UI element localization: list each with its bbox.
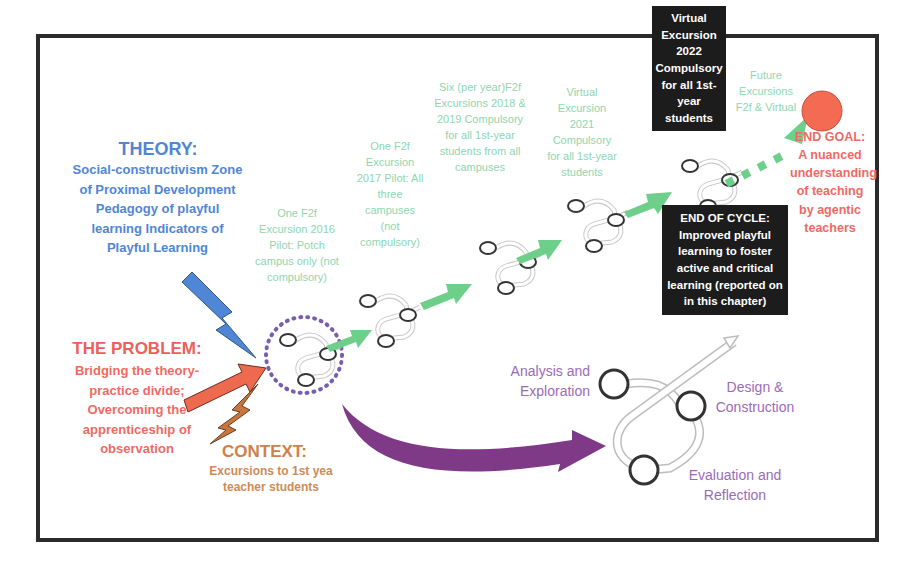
- phase-analysis-label: Analysis and Exploration: [490, 362, 590, 401]
- context-title: CONTEXT:: [222, 441, 342, 462]
- theory-body: Social-constructivism Zone of Proximal D…: [70, 160, 245, 258]
- stage-future-label: Future Excursions F2f & Virtual: [730, 68, 802, 116]
- theory-title: THEORY:: [88, 138, 228, 161]
- stage-2016-label: One F2f Excursion 2016 Pilot: Potch camp…: [252, 206, 342, 286]
- end-goal-label: END GOAL: A nuanced understanding of tea…: [790, 128, 870, 237]
- phase-evaluation-label: Evaluation and Reflection: [680, 466, 790, 505]
- stage-2017-label: One F2f Excursion 2017 Pilot: All three …: [355, 139, 425, 251]
- context-body: Excursions to 1st yea teacher students: [196, 463, 346, 495]
- stage-2021-label: Virtual Excursion 2021 Compulsory for al…: [546, 85, 618, 181]
- purple-transition-arrow: [342, 404, 606, 472]
- problem-body: Bridging the theory-practice divide; Ove…: [52, 361, 222, 459]
- stage-2018-2019-label: Six (per year)F2f Excursions 2018 & 2019…: [432, 80, 528, 176]
- end-goal-circle: [802, 91, 842, 131]
- stage-2022-box: Virtual Excursion 2022 Compulsory for al…: [652, 6, 726, 131]
- end-of-cycle-box: END OF CYCLE: Improved playful learning …: [662, 205, 788, 315]
- phase-design-label: Design & Construction: [700, 378, 810, 417]
- problem-title: THE PROBLEM:: [42, 338, 232, 359]
